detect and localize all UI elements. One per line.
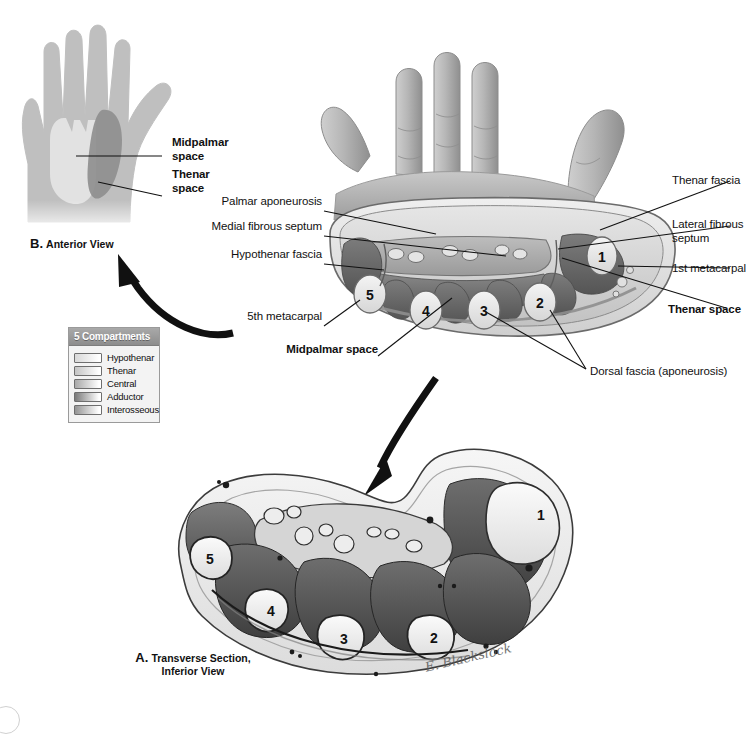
metacarpal-label-2: 2 bbox=[536, 295, 544, 311]
legend-item-interosseous: Interosseous bbox=[74, 404, 155, 415]
legend-item-thenar: Thenar bbox=[74, 365, 155, 376]
panel-b-caption-letter: B. bbox=[30, 236, 43, 251]
legend-label-interosseous: Interosseous bbox=[107, 404, 159, 415]
panel-a-caption-line2: Inferior View bbox=[108, 665, 278, 677]
hand-fingers bbox=[321, 53, 624, 221]
leader-5th-metacarpal bbox=[324, 300, 360, 326]
page-corner-marker bbox=[0, 706, 20, 734]
label-hypothenar-fascia: Hypothenar fascia bbox=[150, 248, 322, 262]
label-thenar-space-b: Thenar space bbox=[172, 168, 252, 195]
compartments-legend: 5 Compartments Hypothenar Thenar Central… bbox=[68, 327, 160, 423]
legend-swatch-hypothenar bbox=[74, 353, 102, 363]
panel-a-caption-letter: A. bbox=[135, 650, 148, 665]
legend-item-central: Central bbox=[74, 378, 155, 389]
legend-swatch-central bbox=[74, 379, 102, 389]
legend-label-hypothenar: Hypothenar bbox=[107, 352, 154, 363]
label-midpalmar-space-b: Midpalmar space bbox=[172, 136, 252, 163]
label-5th-metacarpal: 5th metacarpal bbox=[160, 310, 322, 324]
panel-a-caption-line1: Transverse Section, bbox=[151, 652, 250, 664]
legend-label-thenar: Thenar bbox=[107, 365, 136, 376]
legend-label-central: Central bbox=[107, 378, 136, 389]
specimen-label-4: 4 bbox=[267, 603, 275, 619]
legend-swatch-adductor bbox=[74, 392, 102, 402]
label-midpalmar-space-c: Midpalmar space bbox=[210, 343, 378, 357]
specimen-label-2: 2 bbox=[430, 630, 438, 646]
legend-items: Hypothenar Thenar Central Adductor Inter… bbox=[69, 346, 159, 422]
anterior-hand-illustration bbox=[10, 14, 260, 254]
panel-b-anterior-view bbox=[10, 14, 260, 254]
legend-swatch-interosseous bbox=[74, 405, 102, 415]
label-medial-fibrous-septum: Medial fibrous septum bbox=[140, 220, 322, 234]
specimen-label-3: 3 bbox=[340, 631, 348, 647]
legend-swatch-thenar bbox=[74, 366, 102, 376]
cross-section-body bbox=[330, 198, 675, 336]
panel-a-caption: A. Transverse Section, Inferior View bbox=[108, 650, 278, 677]
metacarpal-label-3: 3 bbox=[480, 303, 488, 319]
legend-title: 5 Compartments bbox=[69, 328, 159, 346]
specimen-label-1: 1 bbox=[537, 507, 545, 523]
legend-item-adductor: Adductor bbox=[74, 391, 155, 402]
label-dorsal-fascia: Dorsal fascia (aponeurosis) bbox=[590, 365, 754, 379]
label-1st-metacarpal: 1st metacarpal bbox=[672, 262, 754, 276]
metacarpal-label-5: 5 bbox=[366, 287, 374, 303]
metacarpal-label-1: 1 bbox=[598, 249, 606, 265]
legend-item-hypothenar: Hypothenar bbox=[74, 352, 155, 363]
label-palmar-aponeurosis: Palmar aponeurosis bbox=[150, 195, 322, 209]
label-thenar-fascia: Thenar fascia bbox=[672, 174, 754, 188]
legend-label-adductor: Adductor bbox=[107, 391, 143, 402]
label-thenar-space-c: Thenar space bbox=[668, 303, 754, 317]
label-lateral-fibrous-septum: Lateral fibrous septum bbox=[672, 218, 754, 245]
specimen-label-5: 5 bbox=[206, 551, 214, 567]
